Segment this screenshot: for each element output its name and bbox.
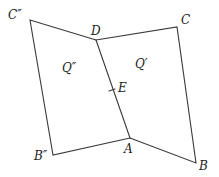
quadrilateral-diagram: C″ D C Q″ Q′ E B″ A B bbox=[0, 0, 219, 177]
vertex-label-c-double-prime: C″ bbox=[8, 9, 22, 21]
region-label-q-double-prime: Q″ bbox=[62, 62, 76, 74]
vertex-label-b-double-prime: B″ bbox=[34, 150, 47, 162]
region-label-q-prime: Q′ bbox=[135, 58, 148, 70]
point-label-e: E bbox=[118, 82, 127, 94]
quadrilateral-q-double-prime-outline bbox=[30, 20, 130, 155]
vertex-label-c: C bbox=[181, 14, 190, 26]
vertex-label-d: D bbox=[91, 25, 101, 37]
vertex-label-b: B bbox=[199, 160, 208, 172]
vertex-label-a: A bbox=[124, 143, 133, 155]
